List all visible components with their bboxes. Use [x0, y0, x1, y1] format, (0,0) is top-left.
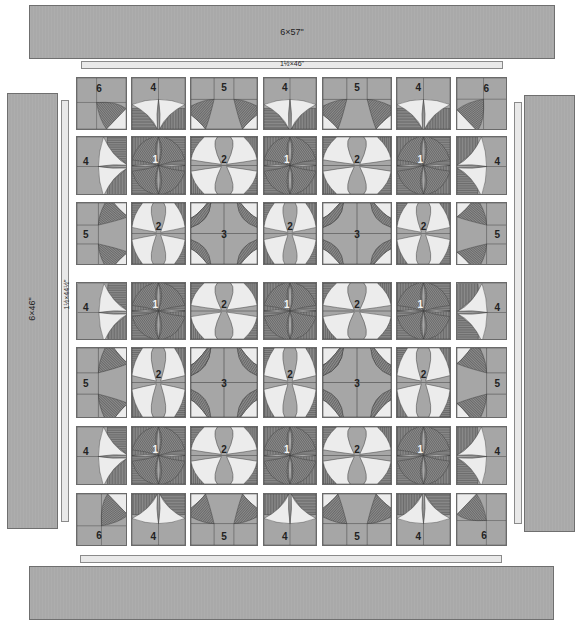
block-number: 5: [354, 82, 360, 93]
inner-border-top-label: 1½×46": [82, 60, 502, 67]
inner-border-left-label: 1½×44½": [63, 273, 70, 317]
block-pattern-icon: [264, 137, 316, 194]
block-pattern-icon: [397, 427, 450, 484]
quilt-block: 1: [131, 426, 186, 485]
block-number: 1: [284, 443, 290, 454]
quilt-block: 5: [190, 493, 258, 546]
block-pattern-icon: [323, 283, 391, 339]
block-number: 4: [415, 530, 421, 541]
quilt-block: 4: [76, 426, 127, 485]
quilt-block: 4: [263, 77, 317, 130]
quilt-block: 2: [396, 347, 451, 418]
quilt-block: 4: [396, 77, 451, 130]
block-pattern-icon: [397, 348, 450, 417]
inner-border-top: 1½×46": [81, 61, 503, 69]
block-pattern-icon: [132, 203, 185, 264]
block-pattern-icon: [397, 137, 450, 194]
block-pattern-icon: [323, 137, 391, 194]
quilt-block: 3: [322, 202, 392, 265]
block-pattern-icon: [264, 427, 316, 484]
block-number: 2: [221, 153, 227, 164]
quilt-block: 5: [322, 493, 392, 546]
quilt-block: 4: [263, 493, 317, 546]
block-number: 6: [96, 529, 102, 540]
block-number: 5: [494, 377, 500, 388]
block-pattern-icon: [191, 283, 257, 339]
quilt-block: 4: [456, 136, 507, 195]
block-number: 4: [494, 301, 500, 312]
quilt-block: 6: [456, 493, 507, 546]
quilt-block: 4: [456, 426, 507, 485]
quilt-block: 2: [190, 426, 258, 485]
block-number: 6: [96, 83, 102, 94]
block-number: 5: [221, 82, 227, 93]
outer-border-bottom: [29, 566, 554, 620]
block-number: 5: [83, 228, 89, 239]
block-number: 1: [418, 299, 424, 310]
quilt-block: 5: [456, 347, 507, 418]
block-number: 1: [418, 153, 424, 164]
block-number: 1: [284, 299, 290, 310]
block-number: 2: [156, 369, 162, 380]
quilt-block: 5: [76, 347, 127, 418]
quilt-block: 1: [131, 282, 186, 340]
quilt-block: 2: [322, 136, 392, 195]
block-number: 2: [354, 299, 360, 310]
block-number: 3: [354, 377, 360, 388]
quilt-block: 1: [396, 282, 451, 340]
quilt-block: 1: [396, 136, 451, 195]
block-pattern-icon: [457, 78, 507, 130]
block-pattern-icon: [264, 203, 316, 264]
block-number: 2: [354, 153, 360, 164]
block-number: 5: [221, 530, 227, 541]
block-number: 2: [421, 221, 427, 232]
block-number: 3: [354, 228, 360, 239]
block-number: 4: [494, 155, 500, 166]
quilt-block: 2: [131, 202, 186, 265]
quilt-block: 3: [190, 202, 258, 265]
quilt-block: 2: [263, 202, 317, 265]
block-pattern-icon: [132, 427, 185, 484]
quilt-block: 5: [322, 77, 392, 130]
outer-border-top-label: 6×57": [30, 27, 554, 37]
block-number: 4: [83, 155, 89, 166]
block-number: 2: [221, 299, 227, 310]
block-pattern-icon: [132, 283, 185, 339]
block-number: 5: [494, 228, 500, 239]
quilt-block: 4: [131, 493, 186, 546]
outer-border-right: [524, 95, 575, 532]
block-pattern-icon: [397, 203, 450, 264]
quilt-block: 5: [190, 77, 258, 130]
block-number: 5: [354, 530, 360, 541]
quilt-block: 4: [456, 282, 507, 340]
quilt-block: 2: [131, 347, 186, 418]
outer-border-left: 6×46": [7, 93, 58, 529]
block-pattern-icon: [191, 137, 257, 194]
block-number: 4: [415, 82, 421, 93]
block-number: 1: [153, 153, 159, 164]
inner-border-left: 1½×44½": [61, 100, 69, 522]
quilt-block: 1: [263, 282, 317, 340]
block-number: 1: [284, 153, 290, 164]
quilt-block: 6: [76, 493, 127, 546]
quilt-block: 4: [76, 282, 127, 340]
block-number: 6: [481, 529, 487, 540]
block-number: 4: [282, 82, 288, 93]
block-number: 4: [494, 445, 500, 456]
block-number: 2: [287, 221, 293, 232]
quilt-block: 5: [76, 202, 127, 265]
quilt-block: 1: [263, 136, 317, 195]
quilt-block: 3: [322, 347, 392, 418]
block-pattern-icon: [132, 494, 185, 545]
block-pattern-icon: [132, 137, 185, 194]
quilt-block: 2: [322, 282, 392, 340]
quilt-block: 4: [131, 77, 186, 130]
block-pattern-icon: [397, 283, 450, 339]
quilt-block: 2: [322, 426, 392, 485]
block-number: 1: [153, 299, 159, 310]
block-pattern-icon: [264, 78, 316, 129]
block-number: 2: [421, 369, 427, 380]
block-number: 6: [484, 83, 490, 94]
block-number: 1: [418, 443, 424, 454]
block-number: 4: [83, 301, 89, 312]
